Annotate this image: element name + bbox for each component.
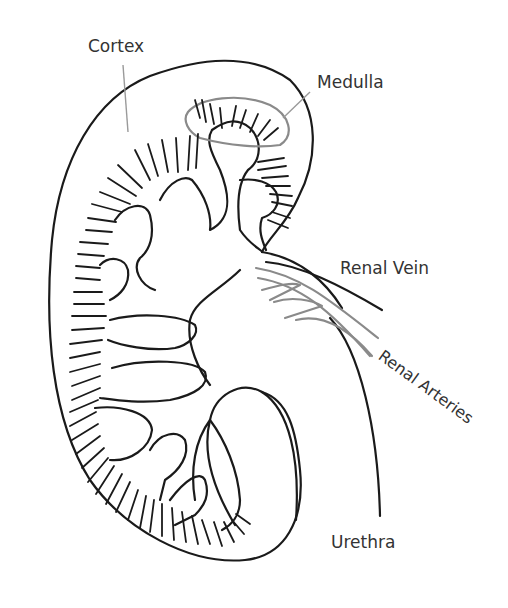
calyx-left-1 bbox=[115, 206, 155, 290]
cortex-leader-line bbox=[123, 65, 128, 132]
label-renal-vein: Renal Vein bbox=[340, 258, 429, 278]
lobe-lower-3 bbox=[170, 476, 207, 525]
label-urethra: Urethra bbox=[331, 532, 395, 552]
label-medulla: Medulla bbox=[317, 72, 384, 92]
calyx-left-2 bbox=[100, 259, 128, 300]
cortex-rays bbox=[70, 134, 250, 546]
lobe-mid-2 bbox=[100, 362, 206, 402]
urethra-right-wall bbox=[330, 318, 380, 516]
medulla-rays bbox=[195, 100, 278, 140]
calyx-upper-right bbox=[240, 180, 278, 251]
lobe-lower-1 bbox=[95, 407, 152, 460]
lobe-mid-1 bbox=[108, 315, 196, 349]
renal-pelvis bbox=[189, 270, 262, 525]
kidney-outer-contour bbox=[49, 61, 313, 561]
renal-vessel-4 bbox=[274, 299, 322, 318]
renal-vessel-3 bbox=[262, 284, 300, 300]
urethra-left-wall bbox=[262, 392, 297, 520]
label-cortex: Cortex bbox=[88, 36, 144, 56]
lobe-lower-2 bbox=[150, 434, 186, 500]
kidney-diagram bbox=[0, 0, 508, 608]
